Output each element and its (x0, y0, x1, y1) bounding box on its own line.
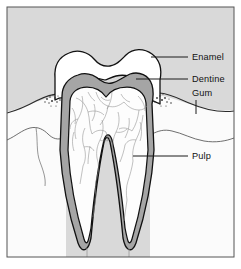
label-gum: Gum (192, 88, 213, 98)
gum-tissue-left (7, 96, 66, 257)
label-enamel: Enamel (192, 52, 224, 62)
label-dentine: Dentine (192, 74, 225, 84)
label-pulp: Pulp (192, 151, 211, 161)
gum-tissue-right (150, 95, 234, 257)
tooth-cross-section-svg: Enamel Dentine Gum Pulp (0, 0, 241, 269)
tooth-diagram-figure: Enamel Dentine Gum Pulp (0, 0, 241, 269)
